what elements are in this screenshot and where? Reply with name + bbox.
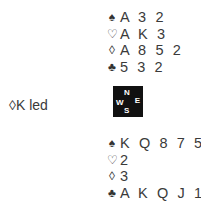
club-icon: ♣ <box>105 185 119 202</box>
diamond-icon: ◊ <box>105 42 119 59</box>
compass-north: N <box>124 88 130 97</box>
compass-east: E <box>135 96 140 105</box>
club-icon: ♣ <box>105 59 119 76</box>
opening-lead: ◊K led <box>9 97 48 113</box>
north-hearts: ♡ A K 3 <box>105 26 183 43</box>
north-diamonds: ◊ A 8 5 2 <box>105 42 183 59</box>
south-clubs: ♣ A K Q J 10 6 <box>105 185 201 202</box>
south-spades: ♠ K Q 8 7 5 <box>105 135 201 152</box>
compass-icon: N W E S <box>113 86 143 117</box>
south-diamonds: ◊ 3 <box>105 168 201 185</box>
diamond-icon: ◊ <box>105 168 119 185</box>
north-spades: ♠ A 3 2 <box>105 9 183 26</box>
south-hearts: ♡ 2 <box>105 152 201 169</box>
compass-west: W <box>116 98 124 107</box>
spade-icon: ♠ <box>105 9 119 26</box>
heart-icon: ♡ <box>105 152 119 169</box>
compass-south: S <box>124 106 129 115</box>
heart-icon: ♡ <box>105 26 119 43</box>
north-clubs: ♣ 5 3 2 <box>105 59 183 76</box>
south-hand: ♠ K Q 8 7 5 ♡ 2 ◊ 3 ♣ A K Q J 10 6 <box>105 135 201 202</box>
north-hand: ♠ A 3 2 ♡ A K 3 ◊ A 8 5 2 ♣ 5 3 2 <box>105 9 183 76</box>
spade-icon: ♠ <box>105 135 119 152</box>
